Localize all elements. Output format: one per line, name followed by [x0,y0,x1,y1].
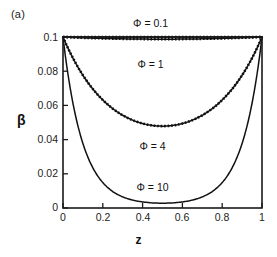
curve-label-phi-4: Φ = 4 [140,140,166,152]
x-tick-1: 1 [242,212,277,223]
y-axis-label: β [17,112,26,128]
figure-panel-a: (a) β z 0.1 0.08 0.06 0.04 0.02 0 0 0.2 … [0,0,277,257]
y-tick-0.1: 0.1 [0,32,58,42]
curve-solid-2 [63,37,262,126]
panel-tag: (a) [11,8,25,20]
y-tick-0: 0 [0,202,58,212]
y-tick-0.08: 0.08 [0,66,58,76]
curve-label-phi-10: Φ = 10 [137,181,169,193]
x-tick-0: 0 [43,212,83,223]
x-tick-0.8: 0.8 [202,212,242,223]
y-tick-0.06: 0.06 [0,100,58,110]
y-tick-0.02: 0.02 [0,168,58,178]
curve-dashed-2 [63,37,262,126]
x-tick-0.2: 0.2 [83,212,123,223]
x-tick-0.6: 0.6 [162,212,202,223]
x-tick-0.4: 0.4 [123,212,163,223]
x-axis-label: z [0,233,277,247]
curve-label-phi-1: Φ = 1 [138,58,164,70]
curve-label-phi-0.1: Φ = 0.1 [133,17,168,29]
y-tick-0.04: 0.04 [0,134,58,144]
